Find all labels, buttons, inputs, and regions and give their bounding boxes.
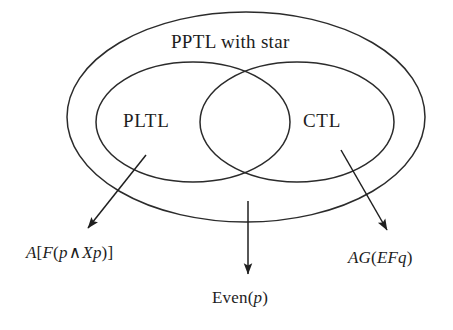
formula-left-token-e: p bbox=[59, 243, 68, 262]
formula-right-token-e: ) bbox=[407, 248, 413, 267]
arrow-to-formula-left bbox=[88, 155, 146, 228]
arrow-to-formula-right bbox=[341, 150, 387, 230]
formula-left-token-c: F bbox=[42, 243, 53, 262]
annotation-formula-right: AG(EFq) bbox=[348, 249, 413, 266]
set-label-ctl: CTL bbox=[303, 111, 341, 130]
formula-center-token-b: p bbox=[254, 288, 263, 307]
formula-center-token-c: ) bbox=[262, 288, 268, 307]
formula-right-token-c: EF bbox=[377, 248, 398, 267]
formula-left-token-h: p bbox=[93, 243, 102, 262]
set-ellipse-ctl bbox=[200, 62, 394, 182]
formula-center-token-a: Even( bbox=[212, 288, 254, 307]
formula-right-token-a: AG bbox=[348, 248, 371, 267]
set-label-outer: PPTL with star bbox=[171, 32, 290, 51]
annotation-formula-center: Even(p) bbox=[212, 289, 268, 306]
conjunction-symbol: ∧ bbox=[68, 243, 83, 262]
formula-left-token-i: )] bbox=[102, 243, 114, 262]
diagram-figure: PPTL with star PLTL CTL A[F(p∧Xp)] Even(… bbox=[0, 0, 453, 330]
annotation-formula-left: A[F(p∧Xp)] bbox=[26, 244, 113, 261]
formula-left-token-g: X bbox=[82, 243, 93, 262]
set-label-pltl: PLTL bbox=[123, 111, 169, 130]
formula-left-token-a: A bbox=[26, 243, 37, 262]
formula-right-token-d: q bbox=[398, 248, 407, 267]
